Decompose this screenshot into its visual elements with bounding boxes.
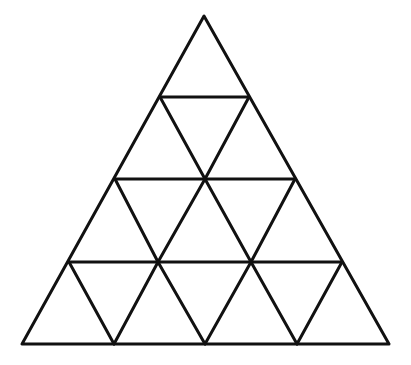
interior-segment [115,179,158,262]
interior-segment [297,262,342,344]
interior-segment [251,179,295,262]
triangle-grid-lines [22,16,389,344]
interior-segment [205,97,249,179]
interior-segment [158,262,205,344]
interior-segment [205,262,251,344]
interior-segment [205,179,251,262]
interior-segment [160,97,205,179]
triangle-diagram [0,0,411,365]
interior-segment [158,179,205,262]
interior-segment [114,262,158,344]
interior-segment [251,262,297,344]
interior-segment [69,262,114,344]
